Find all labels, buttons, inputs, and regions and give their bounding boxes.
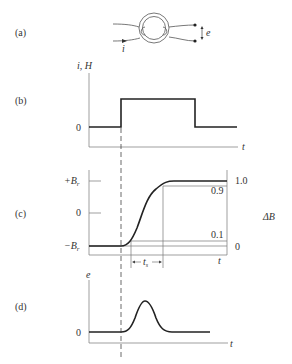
- y-axis-label-e: e: [86, 269, 91, 280]
- panel-a: (a) i e: [15, 13, 211, 54]
- x-axis-label-t: t: [230, 338, 233, 349]
- toroid-core-icon: [139, 13, 169, 43]
- flux-curve: [89, 181, 227, 246]
- zero-label: 0: [76, 122, 81, 133]
- label-1.0: 1.0: [235, 175, 248, 186]
- panel-a-label: (a): [15, 27, 26, 39]
- magnetic-core-switching-figure: (a) i e (b) i, H 0 t: [0, 0, 292, 364]
- delta-b-label: ΔB: [262, 211, 275, 222]
- output-wire-top: [169, 25, 195, 27]
- zero-label: 0: [76, 327, 81, 338]
- input-wire-top: [113, 24, 139, 27]
- output-wire-bottom: [169, 37, 195, 41]
- terminal-top: [193, 23, 196, 26]
- panel-c: (c) +Br 0 −Br 1.0 0.9 0.1 0 ΔB t ts: [15, 170, 275, 268]
- panel-d-label: (d): [15, 301, 27, 313]
- label-0.1: 0.1: [211, 229, 224, 240]
- label-plus-br: +Br: [64, 175, 80, 188]
- panel-b: (b) i, H 0 t: [15, 60, 245, 152]
- label-0.9: 0.9: [211, 185, 224, 196]
- y-axis-label-i-h: i, H: [77, 60, 93, 71]
- input-wire-bottom: [113, 38, 140, 41]
- panel-d: (d) e 0 t: [15, 269, 233, 349]
- label-minus-br: −Br: [64, 240, 80, 253]
- pulse-waveform: [89, 99, 237, 127]
- label-zero: 0: [76, 207, 81, 218]
- switching-time-label: ts: [143, 256, 149, 268]
- x-axis-label-t: t: [218, 255, 221, 266]
- emf-double-arrow-icon: [201, 26, 204, 40]
- panel-b-label: (b): [15, 95, 27, 107]
- x-axis-label-t: t: [242, 141, 245, 152]
- panel-c-label: (c): [15, 208, 26, 220]
- emf-label: e: [206, 27, 211, 38]
- voltage-pulse: [89, 301, 210, 332]
- terminal-bottom: [193, 39, 196, 42]
- current-label: i: [122, 43, 125, 54]
- label-0: 0: [235, 241, 240, 252]
